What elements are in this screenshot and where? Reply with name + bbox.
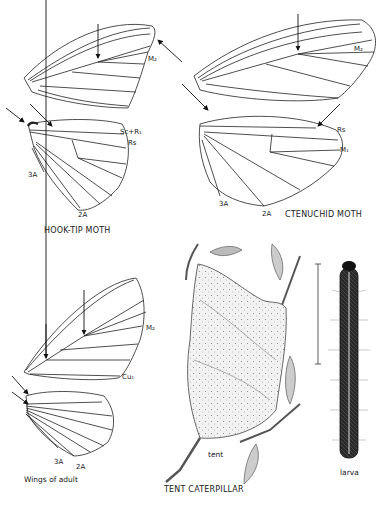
illustration-plate: M₂ Sc+R₁ Rs 3A 2A HOOK-TIP MOTH M₂ Rs M₁… — [0, 0, 386, 508]
arrow-icon — [6, 108, 24, 122]
ctenuchid-forewing — [194, 20, 376, 101]
caption-tent-caterpillar: TENT CATERPILLAR — [164, 486, 244, 494]
tent-caterpillar-forewing — [24, 278, 146, 380]
vein-label-m2: M₂ — [146, 325, 155, 332]
caption-tent: tent — [208, 451, 223, 459]
hook-tip-forewing — [24, 24, 155, 108]
larva-illustration — [328, 261, 370, 458]
vein-label-rs: Rs — [128, 140, 137, 147]
vein-label-3a: 3A — [28, 172, 37, 179]
arrow-icon — [318, 104, 340, 126]
hook-tip-hindwing — [28, 120, 128, 211]
ctenuchid-hindwing — [199, 116, 342, 206]
caption-hook-tip-moth: HOOK-TIP MOTH — [44, 227, 110, 235]
vein-label-m1: M₁ — [340, 147, 349, 154]
vein-label-3a: 3A — [54, 459, 63, 466]
tent-illustration — [166, 244, 300, 484]
caption-ctenuchid-moth: CTENUCHID MOTH — [285, 211, 362, 219]
arrow-icon — [12, 392, 28, 404]
plate-artwork — [0, 0, 386, 508]
arrow-icon — [182, 84, 208, 110]
vein-label-2a: 2A — [76, 464, 85, 471]
vein-label-rs: Rs — [337, 127, 346, 134]
vein-label-2a: 2A — [262, 211, 271, 218]
vein-label-2a: 2A — [78, 212, 87, 219]
arrow-icon — [12, 376, 28, 394]
scale-bar — [315, 264, 321, 364]
arrow-icon — [158, 40, 182, 62]
vein-label-cu1: Cu₁ — [122, 374, 134, 381]
vein-label-m2: M₂ — [148, 56, 157, 63]
vein-label-m2: M₂ — [354, 46, 363, 53]
vein-label-sc-r1: Sc+R₁ — [120, 129, 142, 136]
tent-caterpillar-hindwing — [26, 392, 114, 457]
vein-label-3a: 3A — [219, 201, 228, 208]
caption-larva: larva — [340, 469, 359, 477]
caption-wings-of-adult: Wings of adult — [24, 476, 78, 484]
